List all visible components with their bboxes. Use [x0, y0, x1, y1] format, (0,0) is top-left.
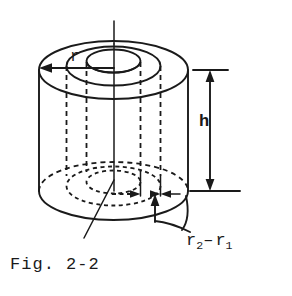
- thickness-r-outer: r: [186, 231, 196, 250]
- hollow-cylinder-drawing: [0, 0, 292, 296]
- axis-line-diagonal: [84, 180, 114, 238]
- thickness-minus-sign: –: [203, 231, 215, 250]
- thickness-subscript-inner: 1: [226, 239, 233, 252]
- thickness-r-inner: r: [215, 231, 225, 250]
- height-arrowhead-top: [206, 70, 215, 82]
- height-arrowhead-bottom: [206, 179, 215, 191]
- figure-caption: Fig. 2-2: [10, 256, 100, 273]
- height-label: h: [199, 113, 209, 130]
- thickness-arrowhead-left: [130, 190, 141, 198]
- radius-label: r: [70, 49, 80, 65]
- wall-thickness-label: r2–r1: [186, 232, 233, 251]
- thickness-arrowhead-outer: [161, 190, 172, 198]
- figure-container: r h r2–r1 Fig. 2-2: [0, 0, 292, 296]
